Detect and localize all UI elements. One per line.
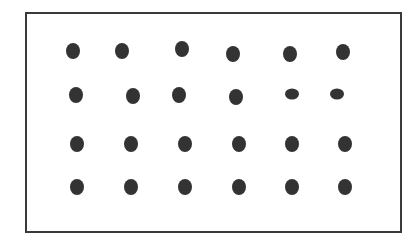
dot-r1-c6 <box>336 44 350 60</box>
dot-r2-c6 <box>330 89 344 100</box>
dot-r4-c2 <box>124 179 138 195</box>
dot-r2-c3 <box>172 87 186 103</box>
dot-r4-c3 <box>178 179 192 195</box>
dot-r1-c1 <box>66 43 80 59</box>
dot-r3-c6 <box>338 136 352 152</box>
dot-r4-c4 <box>232 179 246 195</box>
dot-r1-c3 <box>175 41 189 57</box>
dot-r2-c1 <box>69 87 83 103</box>
dot-r1-c5 <box>283 46 297 62</box>
dot-r1-c2 <box>115 43 129 59</box>
dot-r2-c2 <box>126 88 140 104</box>
dot-r2-c5 <box>285 89 299 100</box>
dot-r4-c5 <box>285 179 299 195</box>
dot-r3-c4 <box>232 136 246 152</box>
dot-r3-c2 <box>124 136 138 152</box>
dot-r4-c6 <box>338 179 352 195</box>
dot-r4-c1 <box>70 179 84 195</box>
dot-r2-c4 <box>229 89 243 105</box>
dot-r3-c5 <box>285 136 299 152</box>
dot-r3-c1 <box>70 136 84 152</box>
dot-r3-c3 <box>178 136 192 152</box>
dot-r1-c4 <box>226 46 240 62</box>
